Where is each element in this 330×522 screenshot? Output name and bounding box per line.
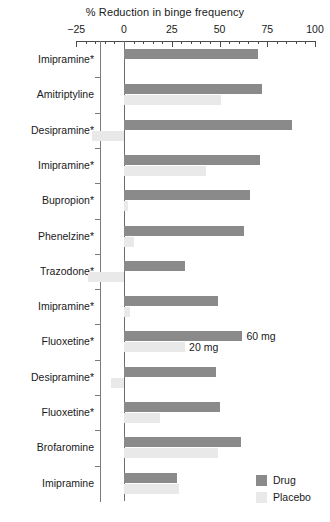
bar-placebo	[124, 448, 218, 458]
bar-placebo	[124, 166, 206, 176]
legend-label-drug: Drug	[273, 475, 296, 486]
legend-item-drug: Drug	[256, 472, 311, 489]
bar-drug	[124, 155, 260, 165]
bar-placebo	[111, 378, 124, 388]
bar-row: Brofaromine	[0, 436, 330, 471]
bar-row: Fluoxetine*60 mg20 mg	[0, 330, 330, 365]
binge-frequency-chart: % Reduction in binge frequency −25025507…	[0, 0, 330, 522]
bar-row: Fluoxetine*	[0, 401, 330, 436]
bar-row: Bupropion*	[0, 189, 330, 224]
category-label: Phenelzine*	[0, 230, 94, 242]
bar-row: Desipramine*	[0, 366, 330, 401]
bar-row: Amitriptyline	[0, 83, 330, 118]
bar-row: Imipramine*	[0, 48, 330, 83]
bar-rows: Imipramine*AmitriptylineDesipramine*Imip…	[0, 0, 330, 522]
category-label: Trazodone*	[0, 265, 94, 277]
bar-drug	[124, 437, 241, 447]
bar-placebo	[124, 413, 160, 423]
bar-placebo	[88, 272, 124, 282]
category-label: Fluoxetine*	[0, 335, 94, 347]
bar-placebo	[124, 342, 185, 352]
bar-row: Imipramine*	[0, 295, 330, 330]
category-label: Fluoxetine*	[0, 406, 94, 418]
category-label: Imipramine*	[0, 159, 94, 171]
bar-drug	[124, 331, 242, 341]
category-label: Brofaromine	[0, 441, 94, 453]
legend-swatch-placebo	[256, 492, 267, 503]
bar-placebo	[124, 307, 130, 317]
bar-drug	[124, 473, 177, 483]
bar-drug	[124, 367, 216, 377]
category-label: Imipramine	[0, 477, 94, 489]
bar-placebo	[124, 484, 179, 494]
bar-drug	[124, 261, 185, 271]
bar-row: Desipramine*	[0, 119, 330, 154]
bar-row: Imipramine*	[0, 154, 330, 189]
bar-drug	[124, 402, 220, 412]
category-label: Amitriptyline	[0, 88, 94, 100]
category-label: Desipramine*	[0, 371, 94, 383]
bar-placebo	[92, 131, 124, 141]
category-label: Desipramine*	[0, 124, 94, 136]
category-label: Imipramine*	[0, 300, 94, 312]
bar-drug	[124, 84, 262, 94]
bar-placebo	[124, 237, 134, 247]
bar-drug	[124, 226, 244, 236]
chart-legend: Drug Placebo	[256, 472, 311, 506]
bar-drug	[124, 120, 292, 130]
bar-drug	[124, 49, 258, 59]
bar-drug	[124, 296, 218, 306]
bar-row: Trazodone*	[0, 260, 330, 295]
legend-item-placebo: Placebo	[256, 489, 311, 506]
bar-placebo	[124, 201, 128, 211]
legend-label-placebo: Placebo	[273, 492, 311, 503]
bar-annotation: 60 mg	[246, 330, 275, 342]
bar-placebo	[124, 95, 221, 105]
category-label: Bupropion*	[0, 194, 94, 206]
bar-drug	[124, 190, 250, 200]
bar-row: Phenelzine*	[0, 225, 330, 260]
bar-annotation: 20 mg	[189, 341, 218, 353]
legend-swatch-drug	[256, 475, 267, 486]
category-label: Imipramine*	[0, 53, 94, 65]
